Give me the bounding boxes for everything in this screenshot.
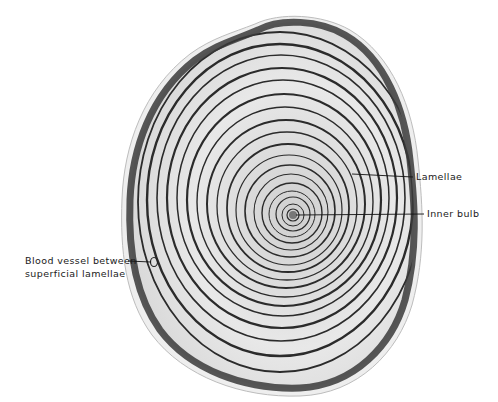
label-blood-vessel-line2: superficial lamellae (25, 268, 126, 280)
figure: Lamellae Inner bulb Blood vessel between… (0, 0, 498, 402)
corpuscle-illustration (0, 0, 498, 402)
inner-bulb-core (289, 211, 297, 219)
label-blood-vessel-line1: Blood vessel between (25, 255, 137, 267)
label-lamellae: Lamellae (416, 171, 462, 183)
label-inner-bulb: Inner bulb (427, 208, 479, 220)
